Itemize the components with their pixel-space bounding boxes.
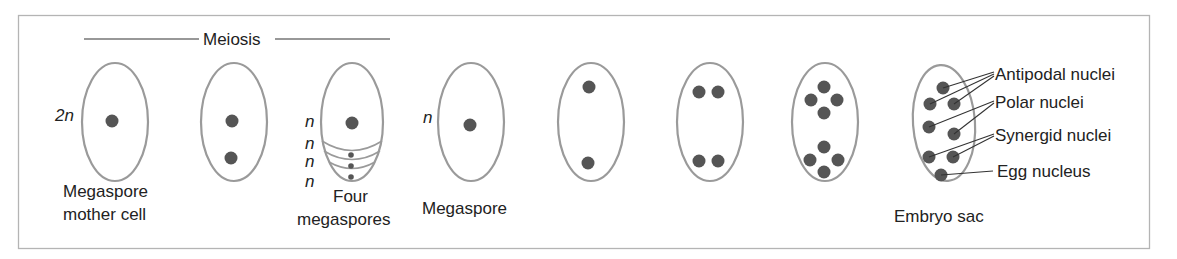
nucleus (805, 94, 818, 107)
nucleus (106, 115, 119, 128)
nucleus (712, 155, 725, 168)
degenerating-nucleus (348, 152, 354, 158)
nucleus (225, 152, 238, 165)
meiosis-label: Meiosis (203, 30, 261, 49)
ploidy-label-n: n (305, 152, 314, 171)
stage-label-line2: megaspores (297, 210, 391, 229)
stage-label: Megaspore (422, 199, 507, 218)
nucleus (818, 107, 831, 120)
embryo-sac-development-diagram: Meiosis 2n Megaspore mother cell n n n n… (0, 0, 1177, 259)
nucleus (818, 81, 831, 94)
stage-label-line2: mother cell (63, 205, 146, 224)
nucleus (832, 154, 845, 167)
nucleus (831, 94, 844, 107)
stage-label-line1: Megaspore (63, 182, 148, 201)
nucleus (693, 86, 706, 99)
stage-label: Embryo sac (894, 207, 984, 226)
ploidy-label-n: n (305, 172, 314, 191)
degenerating-nucleus (348, 174, 354, 180)
egg-nucleus-label: Egg nucleus (997, 162, 1091, 181)
nucleus (226, 115, 239, 128)
degenerating-nucleus (348, 163, 354, 169)
ploidy-label-n: n (305, 112, 314, 131)
nucleus (818, 141, 831, 154)
ploidy-label-n: n (305, 134, 314, 153)
nucleus (583, 81, 596, 94)
nucleus (712, 86, 725, 99)
synergid-nuclei-label: Synergid nuclei (995, 126, 1111, 145)
antipodal-nuclei-label: Antipodal nuclei (995, 65, 1115, 84)
nucleus (804, 154, 817, 167)
ploidy-label-n: n (423, 108, 432, 127)
nucleus (464, 119, 477, 132)
polar-nuclei-label: Polar nuclei (995, 93, 1084, 112)
ploidy-label-2n: 2n (54, 106, 74, 125)
nucleus (582, 157, 595, 170)
stage-label-line1: Four (333, 187, 368, 206)
nucleus (346, 117, 359, 130)
nucleus (818, 166, 831, 179)
nucleus (693, 155, 706, 168)
